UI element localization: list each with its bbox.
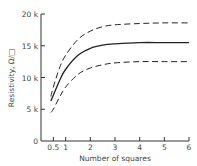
y-axis-label: Resistivity, Ω/□ — [7, 49, 16, 107]
series-typical — [51, 42, 189, 101]
y-tick-label: 0 — [33, 137, 38, 146]
x-tick-label: 1 — [63, 143, 68, 152]
series-lines — [51, 23, 189, 113]
series-upper-bound — [51, 23, 189, 97]
x-tick-label: 5 — [162, 143, 167, 152]
y-tick-label: 5 k — [27, 105, 39, 114]
x-axis-label: Number of squares — [79, 154, 151, 163]
series-lower-bound — [51, 62, 189, 113]
y-tick-label: 10 k — [22, 74, 39, 83]
x-tick-label: 6 — [187, 143, 192, 152]
y-tick-label: 15 k — [22, 42, 39, 51]
x-tick-label: 3 — [113, 143, 118, 152]
y-ticks: 05 k10 k15 k20 k — [22, 10, 45, 146]
x-ticks: 0.5123456 — [47, 137, 191, 152]
x-tick-label: 4 — [137, 143, 142, 152]
y-tick-label: 20 k — [22, 10, 39, 19]
x-tick-label: 0.5 — [47, 143, 59, 152]
resistivity-chart: 05 k10 k15 k20 k 0.5123456 Number of squ… — [0, 0, 197, 166]
x-tick-label: 2 — [88, 143, 93, 152]
